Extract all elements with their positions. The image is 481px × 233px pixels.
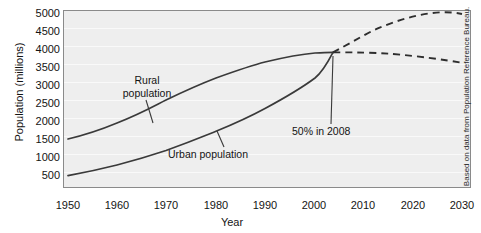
x-tick-label: 2010: [340, 199, 386, 211]
x-tick-label: 1950: [45, 199, 91, 211]
chart-container: 5000 4500 4000 3500 3000 2500 2000 1500 …: [0, 0, 481, 233]
x-axis-tick-labels: 1950 1960 1970 1980 1990 2000 2010 2020 …: [0, 0, 481, 233]
x-tick-label: 2020: [390, 199, 436, 211]
x-tick-label: 2000: [291, 199, 337, 211]
source-credit: Based on data from Population Reference …: [462, 0, 471, 197]
y-axis-title: Population (millions): [13, 17, 25, 167]
x-tick-label: 1960: [94, 199, 140, 211]
annotation-rural-population: Rural population: [112, 74, 182, 99]
x-tick-label: 1970: [143, 199, 189, 211]
annotation-urban-population: Urban population: [168, 148, 260, 161]
annotation-crossover-50-percent: 50% in 2008: [292, 125, 374, 138]
x-tick-label: 2030: [439, 199, 481, 211]
x-tick-label: 1980: [193, 199, 239, 211]
x-axis-title: Year: [202, 216, 262, 228]
x-tick-label: 1990: [242, 199, 288, 211]
